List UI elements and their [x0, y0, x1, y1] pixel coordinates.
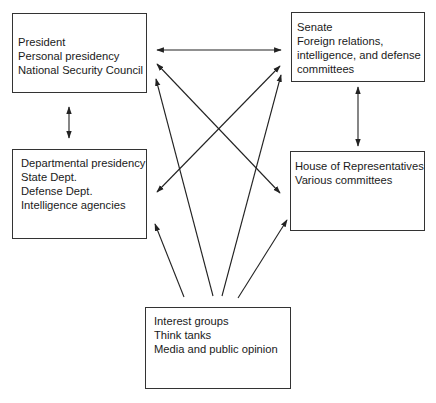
node-text: Various committees: [295, 173, 424, 187]
node-text: National Security Council: [18, 63, 146, 77]
node-text: Intelligence agencies: [21, 198, 146, 212]
node-text: President: [18, 35, 146, 49]
node-text: Departmental presidency: [21, 156, 146, 170]
node-text: Personal presidency: [18, 49, 146, 63]
node-text: Senate: [297, 20, 424, 34]
node-interest-groups: Interest groups Think tanks Media and pu…: [145, 307, 291, 389]
node-text: Media and public opinion: [154, 342, 290, 356]
arrow-interest-departmental: [155, 224, 184, 297]
node-text: Interest groups: [154, 314, 290, 328]
node-senate: Senate Foreign relations, intelligence, …: [291, 12, 425, 82]
arrow-interest-president: [156, 79, 213, 296]
node-text: Defense Dept.: [21, 184, 146, 198]
node-departmental: Departmental presidency State Dept. Defe…: [12, 149, 147, 239]
node-text: intelligence, and defense: [297, 48, 424, 62]
node-text: Foreign relations,: [297, 34, 424, 48]
node-text: committees: [297, 62, 424, 76]
node-text: House of Representatives: [295, 159, 424, 173]
node-house: House of Representatives Various committ…: [290, 151, 425, 231]
arrow-interest-house: [238, 220, 287, 298]
node-president: President Personal presidency National S…: [12, 13, 147, 93]
node-text: Think tanks: [154, 328, 290, 342]
node-text: State Dept.: [21, 170, 146, 184]
